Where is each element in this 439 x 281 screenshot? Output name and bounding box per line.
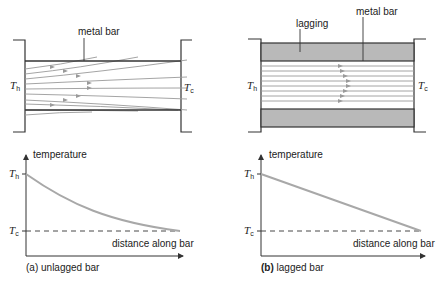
tc-tick-label: Tc xyxy=(9,224,19,237)
heat-flow-lines xyxy=(25,57,187,115)
panel-a-bar-diagram: metal bar Th Tc xyxy=(10,26,194,132)
lagging-bottom xyxy=(261,109,414,127)
x-axis-label: distance along bar xyxy=(112,238,194,249)
x-axis-label: distance along bar xyxy=(353,238,435,249)
heat-flow-lines xyxy=(261,66,414,101)
hot-temp-label: Th xyxy=(10,79,20,92)
cold-temp-label: Tc xyxy=(418,79,428,92)
panel-b-caption: (b) lagged bar xyxy=(261,262,324,273)
temperature-line xyxy=(261,174,421,231)
panel-a-temperature-graph: temperature distance along bar Th Tc (a)… xyxy=(9,149,194,273)
hot-temp-label: Th xyxy=(247,79,257,92)
panel-b-bar-diagram: lagging metal bar Th Tc xyxy=(247,6,428,132)
panel-b-temperature-graph: temperature distance along bar Th Tc (b)… xyxy=(244,149,435,273)
metal-bar-label: metal bar xyxy=(78,26,120,37)
flow-arrowheads xyxy=(50,65,92,107)
lagging-top xyxy=(261,43,414,61)
panel-a-caption: (a) unlagged bar xyxy=(26,262,100,273)
lagging-label: lagging xyxy=(296,18,328,29)
y-axis-label: temperature xyxy=(269,149,323,160)
temperature-curve xyxy=(26,174,180,231)
th-tick-label: Th xyxy=(9,167,19,180)
cold-temp-label: Tc xyxy=(184,81,194,94)
metal-bar-label: metal bar xyxy=(356,6,398,17)
tc-tick-label: Tc xyxy=(244,224,254,237)
y-axis-label: temperature xyxy=(33,149,87,160)
heat-conduction-diagram: metal bar Th Tc xyxy=(0,0,439,281)
flow-arrowheads xyxy=(338,64,351,103)
th-tick-label: Th xyxy=(244,167,254,180)
